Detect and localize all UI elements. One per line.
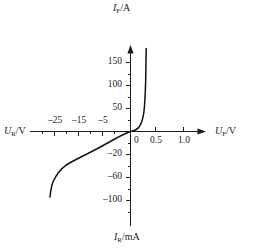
x-tick-label-0: 0 — [134, 136, 139, 146]
x-axis-right-label: UF/V — [215, 126, 236, 136]
x-axis-right-unit: /V — [226, 125, 236, 136]
x-tick-label-minus25: –25 — [44, 116, 66, 126]
forward-bias-curve — [131, 49, 147, 132]
y-tick-label-150: 150 — [99, 57, 122, 67]
reverse-bias-curve — [50, 132, 131, 198]
x-axis-ticks-positive — [156, 127, 184, 132]
x-axis-left-unit: /V — [16, 125, 26, 136]
y-axis-top-subscript: F — [116, 7, 120, 14]
diode-iv-characteristic-figure: IF/A IR/mA UR/V UF/V 150 100 50 –20 –60 … — [0, 0, 261, 252]
x-axis-left-label: UR/V — [4, 126, 26, 136]
y-axis-ticks-negative — [126, 143, 131, 212]
x-axis-left-subscript: R — [11, 130, 16, 137]
x-tick-label-1point0: 1.0 — [176, 136, 192, 146]
x-axis-arrow-icon — [198, 128, 207, 134]
y-axis-bottom-unit: /mA — [122, 231, 140, 242]
y-axis-top-unit: /A — [120, 2, 130, 13]
x-tick-label-minus15: –15 — [68, 116, 90, 126]
y-tick-label-minus20: –20 — [99, 149, 122, 159]
y-axis-bottom-label: IR/mA — [114, 232, 140, 242]
y-axis-ticks-positive — [126, 63, 131, 121]
y-axis-top-label: IF/A — [113, 3, 130, 13]
y-axis-arrow-icon — [127, 45, 133, 54]
y-tick-label-50: 50 — [99, 103, 122, 113]
x-axis-right-subscript: F — [222, 130, 226, 137]
x-tick-label-minus5: –5 — [93, 116, 113, 126]
y-tick-label-100: 100 — [99, 80, 122, 90]
x-axis-ticks-negative — [43, 132, 115, 137]
y-axis-bottom-subscript: R — [117, 236, 122, 243]
y-tick-label-minus60: –60 — [99, 172, 122, 182]
x-tick-label-0point5: 0.5 — [148, 136, 164, 146]
y-tick-label-minus100: –100 — [95, 195, 122, 205]
